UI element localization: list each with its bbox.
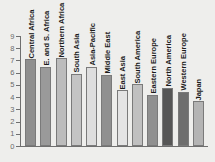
bar-category-label: South Asia	[73, 34, 81, 73]
y-axis-tick: 5	[16, 85, 20, 86]
bar-category-label: South America	[134, 31, 142, 84]
y-axis-tick: 9	[16, 36, 20, 37]
bar-category-label: Asia-Pacific	[89, 23, 97, 66]
bar-slot: Western Europe	[176, 36, 191, 146]
y-axis-tick: 3	[16, 109, 20, 110]
bar-category-label: Middle East	[104, 32, 112, 74]
bar[interactable]: Northern Africa	[56, 58, 67, 146]
y-axis-tick-label: 3	[10, 106, 14, 114]
bar-category-label: North America	[165, 36, 173, 87]
bar[interactable]: East Asia	[117, 90, 128, 146]
bar[interactable]: Western Europe	[178, 92, 189, 146]
bar[interactable]: Central Africa	[25, 59, 36, 146]
bar-slot: North America	[160, 36, 175, 146]
bar-slot: Central Africa	[23, 36, 38, 146]
bar[interactable]: South America	[132, 84, 143, 146]
y-axis-tick-label: 8	[10, 45, 14, 53]
y-axis-tick: 6	[16, 73, 20, 74]
bar-slot: E. and S. Africa	[38, 36, 53, 146]
bar[interactable]: Middle East	[101, 75, 112, 147]
bar-category-label: Japan	[195, 79, 203, 101]
bar-category-label: Eastern Europe	[150, 38, 158, 93]
y-axis-tick-label: 6	[10, 69, 14, 77]
bar-category-label: Central Africa	[28, 9, 36, 58]
y-axis-tick-label: 0	[10, 143, 14, 151]
bar[interactable]: Eastern Europe	[147, 95, 158, 146]
bar-slot: Middle East	[99, 36, 114, 146]
bar-category-label: Northern Africa	[58, 2, 66, 57]
bar-slot: Eastern Europe	[145, 36, 160, 146]
bar-category-label: Western Europe	[180, 33, 188, 90]
bar[interactable]: Japan	[193, 101, 204, 146]
plot-area: Central AfricaE. and S. AfricaNorthern A…	[21, 36, 208, 146]
y-axis-tick-label: 2	[10, 118, 14, 126]
bar[interactable]: North America	[162, 88, 173, 146]
bar[interactable]: Asia-Pacific	[86, 67, 97, 146]
bar[interactable]: South Asia	[71, 74, 82, 146]
y-axis-tick: 4	[16, 97, 20, 98]
y-axis-tick: 7	[16, 60, 20, 61]
bar[interactable]: E. and S. Africa	[40, 67, 51, 146]
bar-category-label: East Asia	[119, 56, 127, 90]
y-axis-tick: 0	[16, 146, 20, 147]
bar-slot: South Asia	[69, 36, 84, 146]
bar-category-label: E. and S. Africa	[43, 11, 51, 66]
bar-chart: 9876543210 Central AfricaE. and S. Afric…	[0, 0, 215, 162]
y-axis-tick-label: 7	[10, 57, 14, 65]
x-axis-line	[20, 146, 208, 147]
bar-slot: Japan	[191, 36, 206, 146]
y-axis-tick: 8	[16, 48, 20, 49]
bar-slot: South America	[130, 36, 145, 146]
y-axis-tick: 2	[16, 122, 20, 123]
y-axis-tick-label: 5	[10, 82, 14, 90]
bar-slot: East Asia	[115, 36, 130, 146]
bar-slot: Asia-Pacific	[84, 36, 99, 146]
y-axis-tick-label: 9	[10, 33, 14, 41]
y-axis-tick-label: 1	[10, 131, 14, 139]
y-axis-tick-label: 4	[10, 94, 14, 102]
y-axis-tick: 1	[16, 134, 20, 135]
bar-slot: Northern Africa	[54, 36, 69, 146]
